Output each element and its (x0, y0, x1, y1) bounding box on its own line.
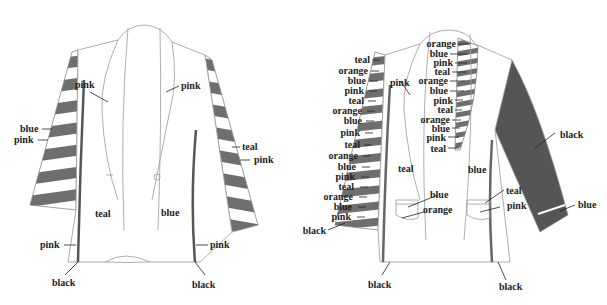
label-pocket-right-1: teal (506, 186, 522, 196)
label-hem-right: pink (210, 240, 229, 250)
label-lapel-left: pink (75, 80, 94, 90)
lapel-label-11: pink (396, 133, 446, 143)
label-pocket-left-2: orange (423, 205, 452, 215)
sleeve-label-10: orange (308, 151, 358, 161)
left-jacket (30, 25, 258, 263)
sleeve-label-1: teal (320, 55, 370, 65)
sleeve-label-8: pink (310, 128, 360, 138)
label-sleeve-right-2: pink (254, 155, 273, 165)
label-edge-left: black (52, 278, 75, 288)
label-edge-right: black (192, 280, 215, 290)
label-pocket-left-1: blue (430, 190, 448, 200)
label-right-lapel-left: pink (390, 78, 409, 88)
label-right-edge-right: black (499, 282, 522, 292)
label-sleeve-right-dark: black (560, 130, 583, 140)
label-right-edge-left: black (368, 280, 391, 290)
sleeve-label-16: pink (301, 212, 351, 222)
jacket-illustrations (0, 0, 607, 305)
label-sleeve-left-2: pink (14, 135, 33, 145)
label-body-left: teal (95, 209, 111, 219)
sleeve-label-7: blue (312, 116, 362, 126)
label-cuff-right: blue (578, 200, 596, 210)
label-sleeve-right-1: teal (242, 142, 258, 152)
label-sleeve-left-1: blue (20, 124, 38, 134)
label-pocket-right-2: pink (507, 201, 526, 211)
label-right-body-right: blue (468, 165, 486, 175)
lapel-label-12: teal (396, 144, 446, 154)
sleeve-label-17: black (276, 226, 326, 236)
label-right-body-left: teal (398, 164, 414, 174)
label-body-right: blue (161, 208, 179, 218)
label-lapel-right: pink (181, 81, 200, 91)
label-hem-left: pink (40, 240, 59, 250)
sleeve-label-9: teal (310, 140, 360, 150)
